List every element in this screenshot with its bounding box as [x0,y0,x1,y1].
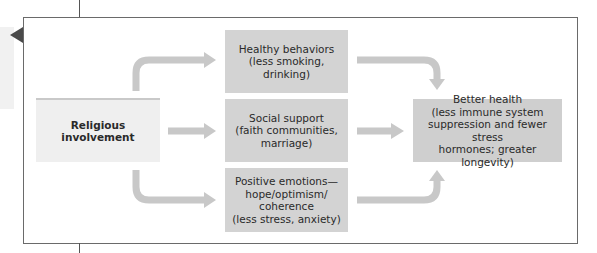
mediator-box-healthy-behaviors: Healthy behaviors (less smoking, drinkin… [225,30,348,93]
arrowhead-icon [204,52,216,68]
arrowhead-icon [391,123,404,139]
source-label: Religious involvement [40,119,156,144]
mediator-box-positive-emotions: Positive emotions— hope/optimism/ cohere… [225,168,348,232]
source-box-religious-involvement: Religious involvement [36,98,160,162]
arrow-source-to-behaviors [136,60,205,91]
mediator-detail: hope/optimism/ [232,188,341,201]
arrowhead-icon [429,170,445,181]
outcome-detail: suppression and fewer stress [417,118,558,143]
outcome-box-better-health: Better health (less immune system suppre… [413,99,562,162]
arrowhead-icon [204,192,216,208]
arrowhead-icon [204,123,216,139]
mediator-title: Positive emotions— [232,175,341,188]
arrow-emotions-to-outcome [357,180,437,200]
mediator-detail: (faith communities, [235,124,337,137]
mediator-box-social-support: Social support (faith communities, marri… [225,99,348,162]
mediator-detail: marriage) [235,137,337,150]
outcome-detail: hormones; greater longevity) [417,143,558,168]
mediator-detail: (less smoking, drinking) [229,55,344,80]
mediator-title: Social support [235,112,337,125]
mediator-title: Healthy behaviors [229,43,344,56]
mediator-detail: (less stress, anxiety) [232,213,341,226]
mediator-detail: coherence [232,200,341,213]
outcome-title: Better health [417,93,558,106]
arrow-source-to-emotions [136,170,205,200]
outcome-detail: (less immune system [417,106,558,119]
arrow-behaviors-to-outcome [357,60,437,80]
arrowhead-icon [429,79,445,90]
